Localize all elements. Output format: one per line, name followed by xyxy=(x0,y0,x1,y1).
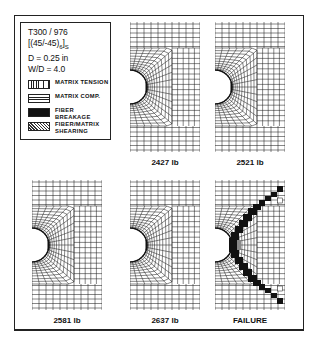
material-label: T300 / 976 xyxy=(28,27,110,38)
width-ratio-label: W/D = 4.0 xyxy=(28,64,110,75)
legend-box: T300 / 976 [(45/-45)6]S D = 0.25 in W/D … xyxy=(20,22,111,140)
horizontal-hatch-icon xyxy=(28,94,50,103)
finite-element-mesh xyxy=(32,180,102,310)
load-label: 2581 lb xyxy=(27,316,107,325)
legend-item-fiber-breakage: FIBER BREAKAGE xyxy=(28,107,110,120)
mesh-panel-3 xyxy=(32,180,102,310)
solid-fill-icon xyxy=(28,108,50,117)
finite-element-mesh xyxy=(130,22,200,152)
legend-item-matrix-tension: MATRIX TENSION xyxy=(28,79,110,92)
load-label: 2637 lb xyxy=(125,316,205,325)
vertical-hatch-icon xyxy=(28,80,50,89)
load-label: 2521 lb xyxy=(210,158,290,167)
mesh-panel-1 xyxy=(130,22,200,152)
mesh-panel-5 xyxy=(215,180,285,310)
load-label: FAILURE xyxy=(210,316,290,325)
legend-items: MATRIX TENSION MATRIX COMP. FIBER BREAKA… xyxy=(28,79,110,137)
finite-element-mesh xyxy=(130,180,200,310)
finite-element-mesh xyxy=(215,180,285,310)
legend-item-fiber-matrix-shearing: FIBER/MATRIX SHEARING xyxy=(28,121,110,137)
finite-element-mesh xyxy=(215,22,285,152)
specimen-info: T300 / 976 [(45/-45)6]S D = 0.25 in W/D … xyxy=(28,27,110,75)
diagonal-hatch-icon xyxy=(28,122,50,131)
layup-label: [(45/-45)6]S xyxy=(28,38,110,53)
diameter-label: D = 0.25 in xyxy=(28,53,110,64)
mesh-panel-4 xyxy=(130,180,200,310)
load-label: 2427 lb xyxy=(125,158,205,167)
mesh-panel-2 xyxy=(215,22,285,152)
legend-item-matrix-comp: MATRIX COMP. xyxy=(28,93,110,106)
